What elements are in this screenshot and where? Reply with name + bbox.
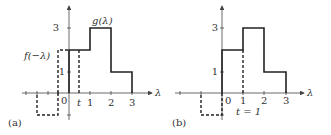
svg-text:1: 1 — [59, 66, 65, 77]
svg-text:3: 3 — [212, 22, 218, 33]
convolution-diagram: 3 1 0 t 1 2 3 λ g(λ) f(−λ) (a) 3 1 0 1 2… — [0, 0, 331, 135]
svg-text:t: t — [77, 97, 82, 108]
svg-text:3: 3 — [129, 97, 135, 108]
g-curve — [222, 28, 286, 93]
svg-text:(b): (b) — [172, 117, 186, 128]
svg-text:1: 1 — [212, 66, 218, 77]
panel-a: 3 1 0 t 1 2 3 λ g(λ) f(−λ) (a) — [8, 6, 161, 128]
svg-text:1: 1 — [87, 97, 93, 108]
svg-text:0: 0 — [61, 95, 67, 106]
svg-text:1: 1 — [240, 95, 246, 106]
svg-text:(a): (a) — [8, 117, 22, 128]
svg-text:2: 2 — [261, 95, 267, 106]
svg-text:0: 0 — [225, 95, 231, 106]
svg-text:f(−λ): f(−λ) — [23, 50, 50, 61]
svg-text:3: 3 — [53, 22, 59, 33]
svg-text:t = 1: t = 1 — [236, 106, 261, 117]
svg-text:g(λ): g(λ) — [92, 15, 113, 26]
svg-text:λ: λ — [154, 87, 161, 98]
svg-text:2: 2 — [108, 97, 114, 108]
svg-text:λ: λ — [306, 87, 313, 98]
svg-text:3: 3 — [283, 95, 289, 106]
panel-b: 3 1 0 1 2 3 t = 1 λ (b) — [172, 6, 313, 128]
f-reflected-curve — [201, 93, 222, 115]
